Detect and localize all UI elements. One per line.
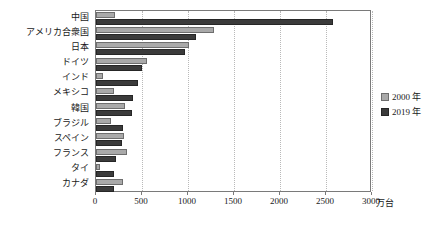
bar-row: [96, 57, 370, 72]
category-label: 中国: [71, 13, 89, 22]
bar-2019: [96, 34, 196, 40]
bar-2019: [96, 80, 138, 86]
bar-2019: [96, 186, 114, 192]
x-tick-mark: [371, 192, 372, 195]
bar-2000: [96, 42, 189, 48]
x-tick-label: 0: [93, 196, 98, 206]
bar-2000: [96, 58, 147, 64]
legend-item-2000[interactable]: 2000 年: [381, 90, 421, 103]
bar-row: [96, 87, 370, 102]
x-tick-mark: [187, 192, 188, 195]
legend-label-2019: 2019 年: [392, 105, 421, 118]
bar-row: [96, 117, 370, 132]
bar-row: [96, 26, 370, 41]
legend-swatch-2000-icon: [381, 93, 389, 101]
category-label: 日本: [71, 43, 89, 52]
category-label: 韓国: [71, 104, 89, 113]
category-label: ブラジル: [53, 119, 89, 128]
bar-2000: [96, 27, 214, 33]
bar-2019: [96, 65, 142, 71]
x-tick-label: 500: [134, 196, 148, 206]
category-label: スペイン: [54, 134, 89, 143]
bar-2019: [96, 19, 333, 25]
x-tick-mark: [95, 192, 96, 195]
x-tick-label: 1500: [224, 196, 242, 206]
category-label: アメリカ合衆国: [26, 28, 89, 37]
bar-2019: [96, 140, 122, 146]
bar-2000: [96, 149, 127, 155]
bar-2000: [96, 12, 115, 18]
bar-2000: [96, 88, 114, 94]
bar-row: [96, 11, 370, 26]
bar-2000: [96, 164, 100, 170]
category-label: ドイツ: [62, 58, 89, 67]
bar-chart: 中国アメリカ合衆国日本ドイツインドメキシコ韓国ブラジルスペインフランスタイカナダ…: [0, 0, 437, 225]
bar-2019: [96, 156, 116, 162]
x-tick-label: 2500: [316, 196, 334, 206]
bar-2000: [96, 179, 123, 185]
bar-2019: [96, 95, 133, 101]
bar-row: [96, 72, 370, 87]
x-tick-mark: [141, 192, 142, 195]
x-tick-mark: [325, 192, 326, 195]
bar-2000: [96, 133, 124, 139]
bar-2000: [96, 73, 103, 79]
x-tick-label: 1000: [178, 196, 196, 206]
legend-swatch-2019-icon: [381, 108, 389, 116]
category-label: メキシコ: [53, 88, 89, 97]
bar-2000: [96, 118, 111, 124]
legend-label-2000: 2000 年: [392, 90, 421, 103]
legend: 2000 年 2019 年: [381, 90, 421, 118]
bar-row: [96, 178, 370, 193]
x-axis-unit-label: 万台: [376, 196, 394, 209]
bar-2000: [96, 103, 125, 109]
bar-row: [96, 163, 370, 178]
bar-row: [96, 41, 370, 56]
x-tick-mark: [279, 192, 280, 195]
legend-item-2019[interactable]: 2019 年: [381, 105, 421, 118]
bar-rows: [96, 11, 370, 191]
category-label: フランス: [53, 149, 89, 158]
x-axis: 050010001500200025003000: [95, 192, 371, 210]
category-axis-labels: 中国アメリカ合衆国日本ドイツインドメキシコ韓国ブラジルスペインフランスタイカナダ: [0, 10, 92, 192]
category-label: カナダ: [62, 179, 89, 188]
bar-2019: [96, 110, 132, 116]
gridline-3000: [372, 11, 373, 191]
bar-2019: [96, 49, 185, 55]
x-tick-label: 2000: [270, 196, 288, 206]
bar-row: [96, 132, 370, 147]
bar-2019: [96, 171, 114, 177]
x-tick-mark: [233, 192, 234, 195]
bar-row: [96, 102, 370, 117]
category-label: インド: [62, 73, 89, 82]
bar-2019: [96, 125, 123, 131]
category-label: タイ: [71, 164, 89, 173]
bar-row: [96, 148, 370, 163]
plot-area: [95, 10, 371, 192]
